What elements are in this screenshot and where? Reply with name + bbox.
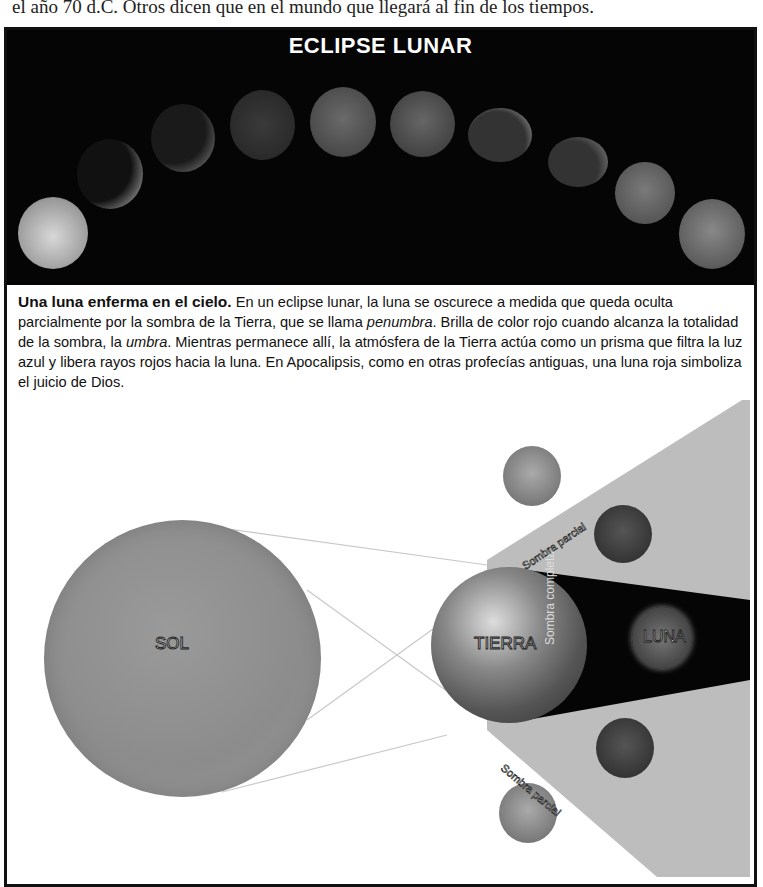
preceding-paragraph-line: el año 70 d.C. Otros dicen que en el mun…	[12, 0, 594, 18]
figure-frame	[4, 27, 757, 887]
